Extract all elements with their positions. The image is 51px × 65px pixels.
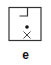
square-outline-icon [9, 8, 41, 41]
filled-dot-icon [25, 25, 29, 29]
x-mark-icon [24, 32, 31, 39]
panel-label: e [0, 49, 51, 61]
diagram-panel-e: e [0, 0, 51, 65]
l-corner-icon [20, 8, 28, 17]
